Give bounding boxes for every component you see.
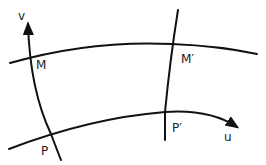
curvilinear-grid-diagram: v u M M′ P P′ — [0, 0, 266, 165]
axis-label-v: v — [18, 9, 25, 23]
point-label-p-prime: P′ — [172, 121, 182, 135]
upper-u-curve — [10, 43, 257, 63]
point-label-p: P — [41, 144, 48, 158]
point-label-m-prime: M′ — [181, 52, 194, 66]
axis-label-u: u — [224, 130, 232, 144]
point-label-m: M — [36, 58, 46, 72]
